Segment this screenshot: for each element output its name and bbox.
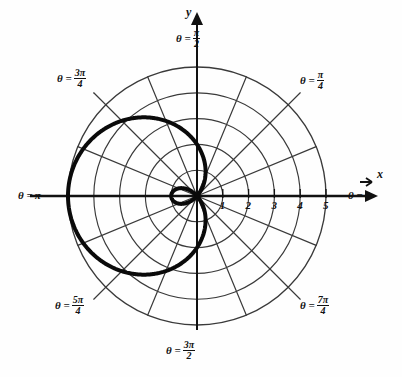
grid-spoke-overshoot: [94, 93, 106, 105]
fraction-pi-2: π 2: [193, 28, 200, 48]
grid-spoke-overshoot: [288, 287, 300, 299]
angle-label-theta-3pi-4: θ = 3π 4: [57, 68, 86, 88]
angle-eq-text: θ =: [300, 300, 315, 311]
polar-graph-figure: y x θ = π 2 θ = 3π 4 θ = π 4 θ = π θ = 0…: [0, 0, 402, 377]
angle-eq-text: θ =: [348, 190, 363, 201]
angle-eq-text: θ =: [57, 73, 72, 84]
fraction-numerator: π: [317, 70, 324, 81]
fraction-denominator: 2: [185, 351, 192, 361]
fraction-denominator: 4: [319, 306, 326, 316]
radial-tick-label-5: 5: [323, 199, 329, 211]
angle-eq-text: θ =: [166, 345, 181, 356]
fraction-denominator: 2: [193, 39, 200, 49]
fraction-pi-4: π 4: [317, 70, 324, 90]
angle-label-theta-5pi-4: θ = 5π 4: [55, 295, 84, 315]
y-axis-label: y: [186, 6, 191, 18]
fraction-denominator: 4: [317, 81, 324, 91]
angle-eq-text: θ =: [176, 33, 191, 44]
grid-spoke-45deg: [197, 105, 288, 196]
fraction-3pi-4: 3π 4: [74, 68, 86, 88]
angle-label-theta-pi-2: θ = π 2: [176, 28, 200, 48]
angle-label-theta-7pi-4: θ = 7π 4: [300, 295, 329, 315]
theta-zero-direction-arrow: [360, 178, 372, 186]
polar-plot-canvas: [0, 0, 402, 377]
grid-spoke-overshoot: [94, 287, 106, 299]
angle-eq-text: θ =: [300, 75, 315, 86]
fraction-numerator: π: [193, 28, 200, 39]
fraction-numerator: 7π: [317, 295, 329, 306]
x-axis-label: x: [377, 168, 383, 180]
angle-value-text: π: [35, 190, 41, 201]
radial-tick-label-1: 1: [220, 199, 226, 211]
fraction-numerator: 3π: [183, 340, 195, 351]
fraction-denominator: 4: [76, 79, 83, 89]
angle-label-theta-pi: θ = π: [18, 190, 41, 201]
fraction-numerator: 5π: [72, 295, 84, 306]
radial-tick-label-3: 3: [271, 199, 277, 211]
fraction-5pi-4: 5π 4: [72, 295, 84, 315]
angle-value-text: 0: [365, 190, 371, 201]
angle-label-theta-pi-4: θ = π 4: [300, 70, 324, 90]
fraction-numerator: 3π: [74, 68, 86, 79]
y-axis-arrowhead: [191, 12, 203, 25]
angle-eq-text: θ =: [55, 300, 70, 311]
radial-tick-label-4: 4: [297, 199, 303, 211]
radial-tick-label-2: 2: [246, 199, 252, 211]
fraction-3pi-2: 3π 2: [183, 340, 195, 360]
angle-label-theta-0: θ = 0: [348, 190, 370, 201]
angle-label-theta-3pi-2: θ = 3π 2: [166, 340, 195, 360]
fraction-7pi-4: 7π 4: [317, 295, 329, 315]
grid-spoke-overshoot: [288, 93, 300, 105]
fraction-denominator: 4: [74, 306, 81, 316]
angle-eq-text: θ =: [18, 190, 33, 201]
